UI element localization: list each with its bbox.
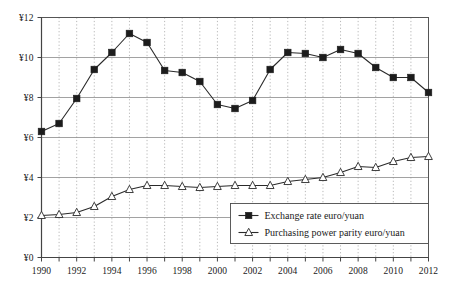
x-axis-tick-label: 1990 [32, 266, 52, 276]
x-axis-tick-label: 2002 [243, 266, 263, 276]
y-axis-tick-label: ¥12 [19, 13, 34, 23]
legend-label: Exchange rate euro/yuan [265, 210, 364, 221]
data-point-marker [73, 95, 80, 102]
legend-label: Purchasing power parity euro/yuan [265, 227, 405, 238]
data-point-marker [267, 66, 274, 73]
y-axis-tick-label: ¥0 [24, 253, 34, 263]
data-point-marker [144, 39, 151, 46]
y-axis-tick-label: ¥10 [19, 53, 34, 63]
data-point-marker [38, 128, 45, 135]
data-point-marker [91, 66, 98, 73]
data-point-marker [231, 181, 239, 188]
data-point-marker [354, 162, 362, 169]
data-point-marker [249, 181, 257, 188]
data-point-marker [372, 64, 379, 71]
data-point-marker [161, 181, 169, 188]
x-axis-tick-label: 2000 [208, 266, 228, 276]
x-axis-tick-label: 2012 [419, 266, 439, 276]
y-axis-tick-labels: ¥0¥2¥4¥6¥8¥10¥12 [19, 13, 34, 263]
data-point-marker [126, 30, 133, 37]
x-axis-tick-label: 1998 [173, 266, 193, 276]
data-point-marker [302, 50, 309, 57]
y-axis-tick-label: ¥6 [24, 133, 34, 143]
x-axis-tick-label: 2008 [348, 266, 368, 276]
y-axis-tick-label: ¥4 [24, 173, 34, 183]
data-point-marker [197, 78, 204, 85]
data-point-marker [143, 181, 151, 188]
data-point-marker [109, 49, 116, 56]
data-point-marker [355, 50, 362, 57]
x-axis-tick-label: 1992 [67, 266, 87, 276]
data-point-marker [425, 89, 432, 96]
y-axis-tick-label: ¥8 [24, 93, 34, 103]
data-point-marker [161, 67, 168, 74]
data-point-marker [408, 74, 415, 81]
x-axis-tick-labels: 1990199219941996199820002002200420062008… [32, 266, 439, 276]
y-axis-tick-label: ¥2 [24, 213, 34, 223]
x-axis-tick-label: 2004 [278, 266, 298, 276]
chart-legend: Exchange rate euro/yuanPurchasing power … [231, 204, 429, 244]
data-point-marker [320, 54, 327, 61]
legend-square-icon [246, 212, 252, 218]
data-point-marker [232, 105, 239, 112]
data-point-marker [425, 152, 433, 159]
data-point-marker [56, 120, 63, 127]
data-point-marker [249, 97, 256, 104]
exchange-rate-ppp-line-chart: ¥0¥2¥4¥6¥8¥10¥12 19901992199419961998200… [0, 0, 452, 289]
data-point-marker [337, 46, 344, 53]
x-axis-tick-label: 2010 [384, 266, 404, 276]
chart-container: ¥0¥2¥4¥6¥8¥10¥12 19901992199419961998200… [0, 0, 452, 289]
data-point-marker [90, 202, 98, 209]
data-point-marker [390, 74, 397, 81]
data-point-marker [284, 49, 291, 56]
data-point-marker [214, 101, 221, 108]
horizontal-gridlines [42, 58, 429, 218]
x-axis-tick-label: 1996 [137, 266, 157, 276]
data-point-marker [179, 69, 186, 76]
x-axis-tick-label: 2006 [313, 266, 333, 276]
x-axis-tick-label: 1994 [102, 266, 122, 276]
